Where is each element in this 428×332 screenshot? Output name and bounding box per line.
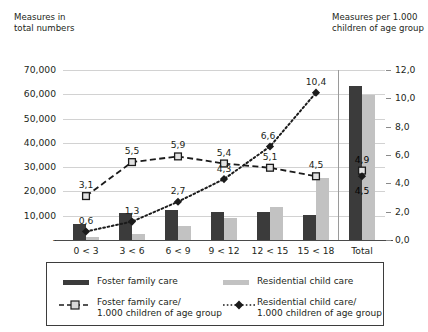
left-axis-tick-label: - [53, 234, 56, 245]
marker-square [175, 153, 182, 160]
right-axis-tickmark [386, 70, 391, 71]
total-separator [338, 70, 339, 240]
left-axis-tick-label: 40,000 [24, 137, 56, 148]
right-axis-tick-label: 4,0 [395, 177, 410, 188]
bar-residential [132, 234, 145, 240]
bar-foster [119, 213, 132, 240]
legend-swatch-residential-bar [223, 280, 249, 285]
right-axis-tickmark [386, 155, 391, 156]
right-axis-tickmark [386, 212, 391, 213]
right-axis-tick-label: 0,0 [395, 234, 410, 245]
bar-residential [86, 237, 99, 240]
point-label: 5,1 [250, 151, 290, 162]
legend-swatch-foster-line [59, 299, 93, 311]
gridline [63, 191, 385, 192]
bar-foster [211, 212, 224, 240]
right-axis-tick-label: 12,0 [395, 64, 415, 75]
left-axis-tick-label: 10,000 [24, 210, 56, 221]
point-label: 4,3 [204, 163, 244, 174]
point-label: 6,6 [248, 130, 288, 141]
point-label: 4,5 [342, 185, 382, 196]
right-axis-tickmark [386, 183, 391, 184]
bar-residential [316, 178, 329, 240]
marker-diamond [312, 89, 320, 97]
point-label: 4,9 [342, 154, 382, 165]
line-foster-per-1000 [86, 156, 316, 196]
legend-label-foster-bar: Foster family care [97, 276, 178, 287]
bar-foster [73, 224, 86, 240]
marker-diamond [220, 175, 228, 183]
point-label: 5,5 [112, 145, 152, 156]
category-label: 9 < 12 [201, 245, 247, 256]
right-axis-tickmark [386, 98, 391, 99]
point-label: 4,5 [296, 159, 336, 170]
right-axis-tickmark [386, 127, 391, 128]
gridline [63, 70, 385, 71]
point-label: 5,4 [204, 147, 244, 158]
right-axis-tick-label: 10,0 [395, 92, 415, 103]
category-label: 15 < 18 [293, 245, 339, 256]
point-label: 10,4 [296, 76, 336, 87]
gridline [63, 119, 385, 120]
category-label: 3 < 6 [109, 245, 155, 256]
legend-swatch-foster-bar [63, 280, 89, 285]
bar-residential [178, 226, 191, 240]
chart-container: Measures in total numbers Measures per 1… [0, 0, 428, 332]
right-axis-tick-label: 2,0 [395, 206, 410, 217]
legend-label-residential-bar: Residential child care [257, 276, 353, 287]
marker-square [83, 193, 90, 200]
left-axis-tick-label: 50,000 [24, 113, 56, 124]
point-label: 1,3 [112, 205, 152, 216]
left-axis-tick-label: 60,000 [24, 88, 56, 99]
legend-label-foster-line: Foster family care/ 1.000 children of ag… [97, 297, 222, 319]
bar-foster [165, 210, 178, 240]
left-axis-tick-label: 70,000 [24, 64, 56, 75]
legend: Foster family care Residential child car… [46, 262, 384, 326]
category-label: Total [339, 245, 385, 256]
bar-foster [303, 215, 316, 240]
right-axis-tick-label: 8,0 [395, 121, 410, 132]
legend-swatch-residential-line [223, 299, 257, 311]
left-axis-tick-label: 20,000 [24, 185, 56, 196]
left-axis-title: Measures in total numbers [14, 12, 74, 33]
point-label: 0,6 [66, 215, 106, 226]
bar-residential [224, 218, 237, 240]
bar-residential [362, 95, 375, 240]
bar-residential [270, 207, 283, 240]
marker-square [129, 159, 136, 166]
left-axis-tick-label: 30,000 [24, 161, 56, 172]
gridline [63, 94, 385, 95]
bar-foster [257, 212, 270, 240]
right-axis-title: Measures per 1.000 children of age group [332, 12, 424, 33]
right-axis-tick-label: 6,0 [395, 149, 410, 160]
axis-baseline [55, 240, 393, 241]
category-label: 6 < 9 [155, 245, 201, 256]
gridline [63, 143, 385, 144]
point-label: 2,7 [158, 185, 198, 196]
category-label: 12 < 15 [247, 245, 293, 256]
gridline [63, 216, 385, 217]
right-axis-tickmark [386, 240, 391, 241]
point-label: 3,1 [66, 179, 106, 190]
legend-label-residential-line: Residential child care/ 1.000 children o… [257, 297, 382, 319]
marker-diamond [174, 198, 182, 206]
category-label: 0 < 3 [63, 245, 109, 256]
point-label: 5,9 [158, 139, 198, 150]
